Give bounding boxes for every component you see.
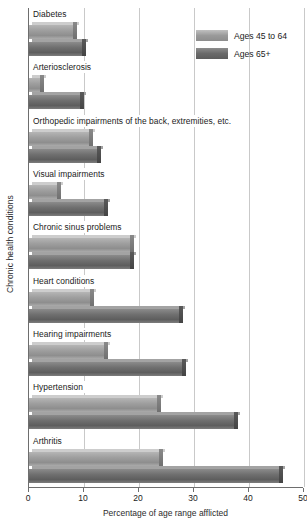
bar-end-cap	[104, 342, 108, 359]
category-label: Heart conditions	[32, 275, 96, 287]
bar-top-facet	[32, 449, 165, 452]
legend-item: Ages 65+	[196, 46, 287, 61]
bar-end-cap	[104, 199, 108, 216]
x-axis-title: Percentage of age range afflicted	[28, 508, 303, 518]
bar-end-cap	[90, 289, 94, 306]
legend-label: Ages 45 to 64	[234, 31, 287, 41]
bar	[29, 255, 134, 269]
bar	[29, 309, 183, 323]
bar-end-cap	[89, 129, 93, 146]
category-label: Hypertension	[32, 381, 85, 393]
bar-top-facet	[32, 289, 96, 292]
bar-top-facet	[32, 39, 88, 42]
bar	[29, 42, 86, 56]
bar	[29, 149, 101, 163]
bar	[29, 132, 93, 146]
bar	[29, 452, 163, 466]
bar-end-cap	[279, 466, 283, 483]
bar	[29, 292, 94, 306]
bar-top-facet	[32, 235, 136, 238]
bar-face	[29, 95, 84, 109]
bar-top-facet	[32, 92, 86, 95]
bar-group: Orthopedic impairments of the back, extr…	[29, 115, 303, 168]
bar-end-cap	[157, 395, 161, 412]
x-axis-tick	[28, 488, 29, 492]
bar-end-cap	[130, 252, 134, 269]
legend-label: Ages 65+	[234, 49, 271, 59]
x-axis-tick	[83, 488, 84, 492]
bar-face	[29, 292, 94, 306]
category-label: Orthopedic impairments of the back, extr…	[32, 115, 233, 127]
category-label: Arteriosclerosis	[32, 61, 93, 73]
x-axis-tick-label: 0	[26, 493, 31, 503]
bar-end-cap	[57, 182, 61, 199]
gridline	[304, 8, 305, 487]
x-axis-tick-label: 10	[78, 493, 87, 503]
x-axis-tick-label: 50	[298, 493, 307, 503]
category-label: Arthritis	[32, 435, 64, 447]
bar-face	[29, 398, 161, 412]
bar-end-cap	[234, 412, 238, 429]
legend-item: Ages 45 to 64	[196, 28, 287, 43]
x-axis-tick	[248, 488, 249, 492]
plot-area: DiabetesArteriosclerosisOrthopedic impai…	[28, 8, 303, 488]
bar-end-cap	[40, 75, 44, 92]
bar-end-cap	[73, 22, 77, 39]
category-label: Diabetes	[32, 8, 68, 20]
category-label: Hearing impairments	[32, 328, 113, 340]
bar-face	[29, 309, 183, 323]
bar	[29, 238, 134, 252]
bar-end-cap	[82, 39, 86, 56]
bar-top-facet	[32, 412, 240, 415]
bar-group: Visual impairments	[29, 168, 303, 221]
bar-end-cap	[179, 306, 183, 323]
x-axis-tick	[138, 488, 139, 492]
category-label: Chronic sinus problems	[32, 221, 124, 233]
bar	[29, 185, 61, 199]
legend-swatch-ages-45-to-64	[196, 30, 228, 41]
bar-face	[29, 202, 108, 216]
bar-face	[29, 362, 186, 376]
bar-face	[29, 415, 238, 429]
horizontal-bar-chart: Chronic health conditions DiabetesArteri…	[0, 0, 307, 526]
bar-group: Hypertension	[29, 381, 303, 434]
bar-top-facet	[32, 22, 79, 25]
bar-face	[29, 25, 77, 39]
bar-end-cap	[182, 359, 186, 376]
x-axis-tick-label: 40	[243, 493, 252, 503]
bar-group: Chronic sinus problems	[29, 221, 303, 274]
x-axis-tick-label: 20	[133, 493, 142, 503]
bar-group: Arthritis	[29, 435, 303, 488]
bar-end-cap	[130, 235, 134, 252]
legend-swatch-ages-65-plus	[196, 48, 228, 59]
bar	[29, 78, 44, 92]
bar-top-facet	[32, 199, 110, 202]
bar-face	[29, 469, 283, 483]
bar	[29, 398, 161, 412]
bar-face	[29, 42, 86, 56]
x-axis-tick	[303, 488, 304, 492]
bar-face	[29, 149, 101, 163]
bar-end-cap	[159, 449, 163, 466]
bar	[29, 25, 77, 39]
bar	[29, 362, 186, 376]
x-axis-tick-label: 30	[188, 493, 197, 503]
bar-top-facet	[32, 146, 103, 149]
y-axis-title-text: Chronic health conditions	[5, 195, 15, 293]
bar-face	[29, 255, 134, 269]
bar-top-facet	[32, 129, 95, 132]
bar-face	[29, 238, 134, 252]
chart-legend: Ages 45 to 64 Ages 65+	[196, 28, 287, 64]
bar	[29, 469, 283, 483]
bar	[29, 95, 84, 109]
bar-face	[29, 345, 108, 359]
bar-top-facet	[32, 342, 110, 345]
bar-group: Hearing impairments	[29, 328, 303, 381]
bar-top-facet	[32, 252, 136, 255]
bar	[29, 415, 238, 429]
category-label: Visual impairments	[32, 168, 107, 180]
bar	[29, 345, 108, 359]
bar-group: Arteriosclerosis	[29, 61, 303, 114]
bar-top-facet	[32, 395, 163, 398]
bar-top-facet	[32, 306, 185, 309]
